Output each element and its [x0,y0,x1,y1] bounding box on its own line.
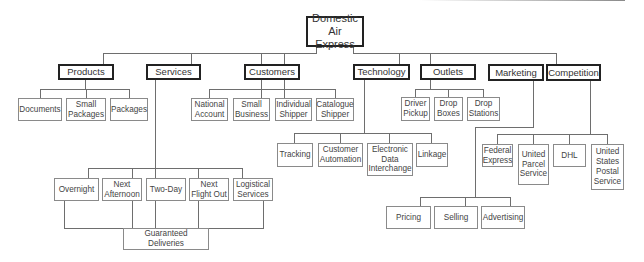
leaf-two-day: Two-Day [146,178,186,201]
leaf-customer-automation: Customer Automation [318,143,363,167]
category-customers: Customers [244,64,300,80]
leaf-drop-stations: Drop Stations [467,97,500,121]
leaf-tracking: Tracking [277,143,313,167]
category-services: Services [146,64,201,80]
leaf-national-account: National Account [191,98,228,121]
leaf-next-flight-out: Next Flight Out [189,178,229,201]
leaf-next-afternoon: Next Afternoon [102,178,142,201]
category-outlets: Outlets [420,64,476,80]
leaf-documents: Documents [18,98,62,121]
category-marketing: Marketing [488,64,544,81]
category-competition: Competition [546,64,601,81]
leaf-catalogue-shipper: Catalogue Shipper [316,98,354,121]
leaf-driver-pickup: Driver Pickup [401,97,430,121]
leaf-packages: Packages [110,98,148,121]
leaf-logistical-services: Logistical Services [233,178,273,201]
leaf-individual-shipper: Individual Shipper [275,98,312,121]
leaf-selling: Selling [434,206,478,229]
leaf-electronic-data-interchange: Electronic Data Interchange [367,143,413,176]
leaf-united-parcel-service: United Parcel Service [518,144,549,185]
leaf-pricing: Pricing [386,206,431,229]
leaf-small-packages: Small Packages [66,98,106,121]
leaf-drop-boxes: Drop Boxes [434,97,463,121]
root-node-domestic-air-express: Domestic Air Express [306,16,364,47]
org-chart: Domestic Air Express Products Services C… [0,0,644,262]
leaf-united-states-postal-service: United States Postal Service [591,144,624,190]
leaf-small-business: Small Business [233,98,270,121]
leaf-advertising: Advertising [481,206,525,229]
merge-node-guaranteed-deliveries: Guaranteed Deliveries [123,228,209,250]
category-products: Products [58,64,114,80]
leaf-overnight: Overnight [54,178,99,201]
category-technology: Technology [353,64,410,80]
leaf-linkage: Linkage [416,143,448,167]
leaf-federal-express: Federal Express [482,144,513,167]
leaf-dhl: DHL [553,144,586,167]
